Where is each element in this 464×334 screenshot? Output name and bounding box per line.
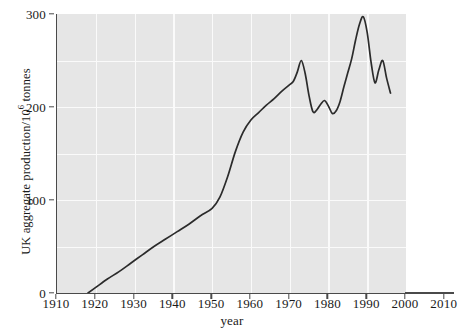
data-series-line	[57, 14, 406, 293]
x-tick-mark	[327, 294, 328, 299]
x-tick-mark	[55, 294, 56, 299]
y-tick-label: 100	[26, 194, 46, 207]
x-tick-mark	[443, 294, 444, 299]
series-layer	[57, 14, 406, 293]
x-tick-mark	[172, 294, 173, 299]
x-tick-mark	[404, 294, 405, 299]
chart-figure: UK aggregate production/106 tonnes 01002…	[0, 0, 464, 334]
x-tick-mark	[288, 294, 289, 299]
plot-area	[56, 14, 406, 294]
y-tick-label: 200	[26, 101, 46, 114]
x-tick-mark	[94, 294, 95, 299]
y-tick-mark	[49, 106, 54, 107]
x-axis-title: year	[0, 313, 464, 329]
y-tick-label: 300	[26, 8, 46, 21]
x-tick-mark	[133, 294, 134, 299]
x-axis-ticks: 1910192019301940195019601970198019902000…	[0, 294, 464, 314]
y-axis-ticks: 0100200300	[0, 0, 54, 334]
x-tick-mark	[210, 294, 211, 299]
y-tick-mark	[49, 13, 54, 14]
x-tick-mark	[366, 294, 367, 299]
y-tick-mark	[49, 199, 54, 200]
x-tick-mark	[249, 294, 250, 299]
